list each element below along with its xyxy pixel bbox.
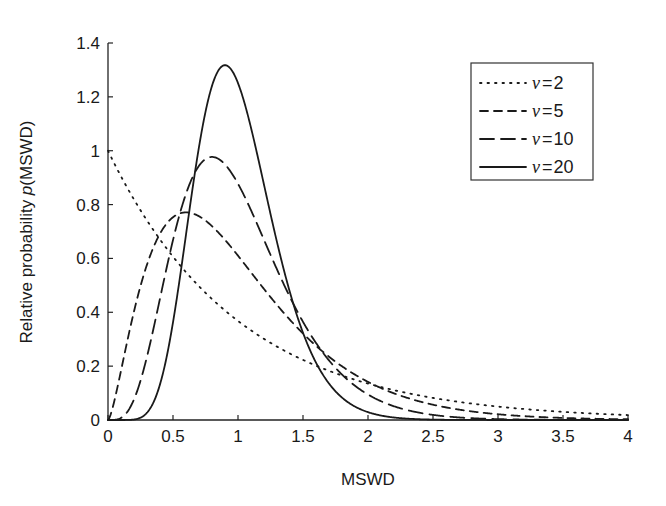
y-tick-label: 0.8 (76, 196, 100, 215)
x-tick-label: 3.5 (551, 427, 575, 446)
x-axis-label: MSWD (341, 470, 395, 489)
x-tick-label: 2 (363, 427, 372, 446)
y-tick-label: 1 (91, 142, 100, 161)
legend-label: ν=20 (532, 157, 574, 177)
curve-nu-10 (108, 157, 628, 420)
curve-nu-2 (108, 151, 628, 415)
x-tick-label: 0 (103, 427, 112, 446)
x-tick-label: 3 (493, 427, 502, 446)
legend: ν=2ν=5ν=10ν=20 (471, 63, 593, 180)
chart: 00.511.522.533.5400.20.40.60.811.21.4 ν=… (0, 0, 666, 506)
curve-nu-5 (108, 212, 628, 420)
y-tick-label: 0.2 (76, 357, 100, 376)
x-tick-label: 1.5 (291, 427, 315, 446)
x-tick-label: 4 (623, 427, 632, 446)
y-tick-label: 0.4 (76, 303, 100, 322)
legend-label: ν=5 (532, 101, 564, 121)
x-tick-label: 0.5 (161, 427, 185, 446)
y-tick-label: 1.2 (76, 88, 100, 107)
y-tick-label: 0.6 (76, 249, 100, 268)
y-tick-label: 1.4 (76, 34, 100, 53)
y-axis-label: Relative probability p(MSWD) (17, 121, 36, 344)
x-tick-label: 2.5 (421, 427, 445, 446)
legend-label: ν=10 (532, 129, 574, 149)
legend-label: ν=2 (532, 73, 564, 93)
y-tick-label: 0 (91, 411, 100, 430)
x-tick-label: 1 (233, 427, 242, 446)
